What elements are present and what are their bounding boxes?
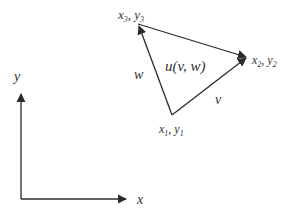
edge-v-label: v <box>215 92 222 107</box>
triangle-diagram: x3, y3 x2, y2 x1, y1 w v u(v, w) y x <box>0 0 297 220</box>
edge-top <box>138 24 246 57</box>
y-axis-label: y <box>12 69 21 84</box>
vertex-2-label: x2, y2 <box>251 53 277 69</box>
vertex-3-label: x3, y3 <box>117 7 144 24</box>
edge-w-label: w <box>134 67 144 82</box>
diagram-canvas: x3, y3 x2, y2 x1, y1 w v u(v, w) y x <box>0 0 297 220</box>
function-label: u(v, w) <box>165 58 206 75</box>
x-axis-label: x <box>136 192 144 207</box>
vertex-1-label: x1, y1 <box>158 122 184 138</box>
